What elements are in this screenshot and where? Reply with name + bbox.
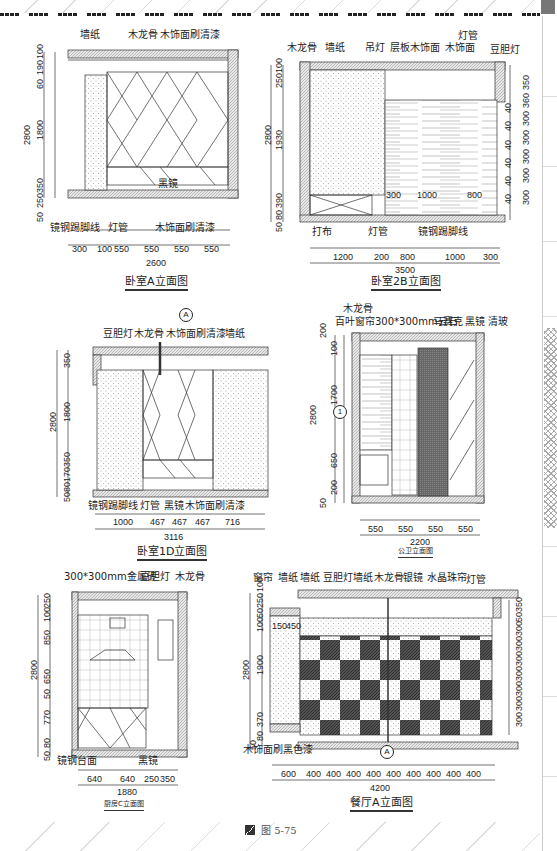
dimension: 300 xyxy=(514,666,524,681)
dimension: 640 xyxy=(87,774,102,784)
dimension: 300 xyxy=(386,190,401,200)
dimension: 400 xyxy=(406,769,421,779)
dimension: 170 xyxy=(62,467,72,482)
callout-label: 灯管 xyxy=(140,500,160,511)
dimension: 360 xyxy=(521,93,531,108)
dimension: 50 xyxy=(248,740,258,750)
dimension: 400 xyxy=(386,769,401,779)
total-width: 3116 xyxy=(164,532,183,542)
dimension: 50 xyxy=(42,689,52,699)
dimension: 1900 xyxy=(255,655,265,675)
dimension: 250 xyxy=(274,73,284,88)
dimension: 370 xyxy=(255,712,265,727)
dimension: 80 xyxy=(42,738,52,748)
total-width: 4200 xyxy=(370,783,390,793)
callout-label: 墙纸 xyxy=(225,328,245,339)
total-height: 2800 xyxy=(263,125,273,145)
dimension: 300 xyxy=(514,636,524,651)
callout-label: 木饰面 xyxy=(445,42,475,53)
callout-label: 木饰面刷清漆 xyxy=(166,328,226,339)
callout-label: 豆胆灯 xyxy=(103,328,133,339)
dimension: 250 xyxy=(144,774,159,784)
total-height: 2800 xyxy=(29,660,39,680)
dimension: 800 xyxy=(467,190,482,200)
total-width: 2200 xyxy=(410,537,430,547)
callout-label: 清玻 xyxy=(488,316,508,327)
dimension: 770 xyxy=(42,710,52,725)
total-height: 2800 xyxy=(308,405,318,425)
dimension: 100 xyxy=(255,577,265,592)
dimension: 1000 xyxy=(445,252,465,262)
drawing-title: 卧室A立面图 xyxy=(125,275,188,291)
dimension: 467 xyxy=(195,517,210,527)
callout-label: 木龙骨 xyxy=(374,572,404,583)
total-width: 3500 xyxy=(395,265,415,275)
dimension: 40 xyxy=(503,121,513,131)
dimension: 650 xyxy=(329,453,339,468)
dimension: 200 xyxy=(318,323,328,338)
dimension: 400 xyxy=(366,769,381,779)
dimension: 467 xyxy=(172,517,187,527)
dimension: 1800 xyxy=(62,402,72,422)
callout-label: 灯管 xyxy=(458,30,478,41)
dimension: 300 xyxy=(514,696,524,711)
dimension: 1200 xyxy=(333,252,353,262)
dimension: 100 xyxy=(35,44,45,59)
dimension: 550 xyxy=(398,524,413,534)
dimension: 190 xyxy=(35,60,45,75)
dimension: 350 xyxy=(514,597,524,612)
dimension: 450 xyxy=(286,621,301,631)
figure-caption: 图 5-75 xyxy=(245,822,297,837)
callout-label: 灯管 xyxy=(108,222,128,233)
dimension: 400 xyxy=(306,769,321,779)
dimension: 550 xyxy=(368,524,383,534)
dimension: 300 xyxy=(514,681,524,696)
dimension: 40 xyxy=(503,194,513,204)
dimension: 40 xyxy=(503,140,513,150)
dimension: 1930 xyxy=(274,130,284,150)
dimension: 550 xyxy=(458,524,473,534)
dimension: 400 xyxy=(426,769,441,779)
dimension: 200 xyxy=(329,480,339,495)
total-height: 2800 xyxy=(241,660,251,680)
callout-label: 豆胆灯 xyxy=(490,44,520,55)
drawing-title: 卧室1D立面图 xyxy=(137,545,207,561)
callout-label: 马赛克 xyxy=(433,316,463,327)
callout-label: 打布 xyxy=(312,226,332,237)
dimension: 350 xyxy=(35,178,45,193)
dimension: 600 xyxy=(281,769,296,779)
callout-label: 木饰面刷清漆 xyxy=(155,222,215,233)
callout-label: 百叶窗帘 xyxy=(335,316,375,327)
dimension: 350 xyxy=(62,452,72,467)
callout-label: 镜钢踢脚线 xyxy=(50,222,100,233)
callout-label: 墙纸 xyxy=(278,572,298,583)
figure-caption-text: 图 5-75 xyxy=(261,825,297,836)
dimension: 300 xyxy=(521,190,531,205)
dimension: 50 xyxy=(62,492,72,502)
callout-label: 黑镜 xyxy=(465,316,485,327)
dimension: 350 xyxy=(521,75,531,90)
callout-label: 吊灯 xyxy=(365,42,385,53)
drawing-title: 卧室2B立面图 xyxy=(371,275,441,291)
callout-label: 水晶珠帘 xyxy=(427,572,467,583)
drawing-title: 厨房C立面图 xyxy=(104,800,144,811)
callout-label: 灯管 xyxy=(368,226,388,237)
dimension: 650 xyxy=(42,669,52,684)
drawing-title: 餐厅A立面图 xyxy=(350,796,413,812)
dimension: 300 xyxy=(521,149,531,164)
callout-label: 木饰面刷清漆 xyxy=(160,29,220,40)
dimension: 100 xyxy=(329,341,339,356)
callout-label: 木龙骨 xyxy=(343,303,373,314)
dimension: 250 xyxy=(255,593,265,608)
dimension: 50 xyxy=(35,212,45,222)
dimension: 400 xyxy=(326,769,341,779)
dimension: 400 xyxy=(446,769,461,779)
dimension: 300 xyxy=(521,111,531,126)
dimension: 1800 xyxy=(35,120,45,140)
dimension: 550 xyxy=(428,524,443,534)
callout-label: 墙纸 xyxy=(353,572,373,583)
dimension: 300 xyxy=(521,130,531,145)
dimension: 300 xyxy=(514,621,524,636)
dimension: 390 xyxy=(274,193,284,208)
dimension: 100 xyxy=(274,58,284,73)
